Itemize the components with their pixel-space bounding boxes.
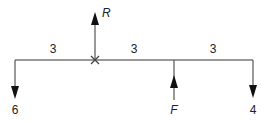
span-label-3: 3 <box>210 42 217 56</box>
left-load-label: 6 <box>12 103 19 117</box>
applied-force-arrow-icon <box>170 60 178 100</box>
reaction-arrow-icon <box>91 12 99 60</box>
beam-diagram: 3 3 3 6 R F 4 <box>0 0 261 122</box>
right-load-arrow-icon <box>249 60 257 98</box>
left-load-arrow-icon <box>11 60 19 99</box>
reaction-label: R <box>102 6 111 20</box>
span-label-1: 3 <box>50 42 57 56</box>
right-load-label: 4 <box>250 103 257 117</box>
span-label-2: 3 <box>131 42 138 56</box>
applied-force-label: F <box>170 103 178 117</box>
